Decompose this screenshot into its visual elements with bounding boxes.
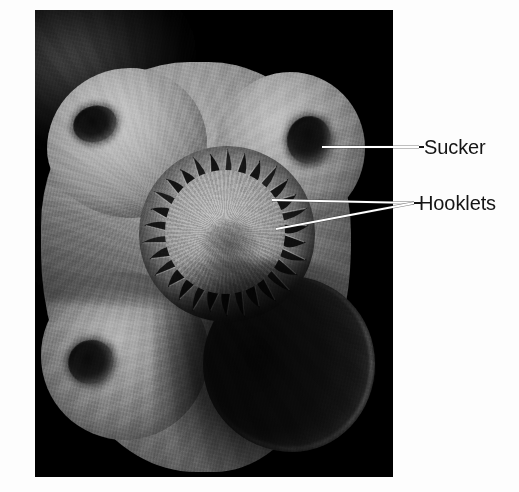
specimen-layer xyxy=(35,10,393,477)
figure-root: Sucker Hooklets xyxy=(0,0,519,492)
micrograph-plate xyxy=(35,10,393,477)
sem-grain xyxy=(35,10,393,477)
label-sucker: Sucker xyxy=(424,136,486,158)
label-hooklets: Hooklets xyxy=(419,192,496,214)
